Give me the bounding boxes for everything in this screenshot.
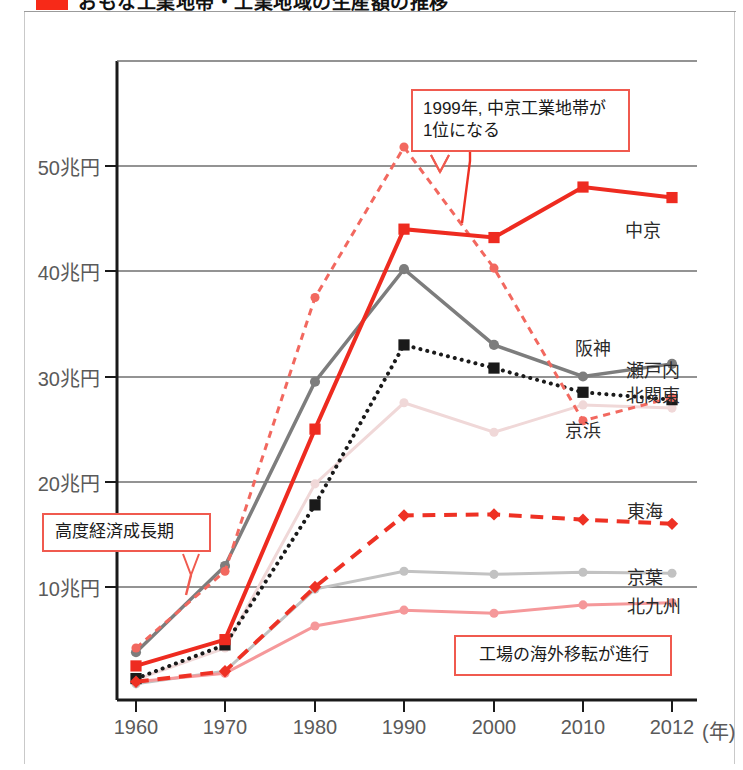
- y-axis-tick-label: 30兆円: [0, 363, 100, 392]
- chart-page: おもな工業地帯・工業地域の生産額の推移 1999年, 中京工業地帯が 1位になる: [0, 0, 743, 770]
- x-axis-tick-label: 2012: [641, 716, 703, 739]
- y-axis-tick-label: 20兆円: [0, 468, 100, 497]
- series-label-北九州: 北九州: [627, 592, 681, 618]
- y-axis-tick-label: 50兆円: [0, 152, 100, 181]
- x-axis-tick-label: 2010: [552, 716, 614, 739]
- series-label-中京: 中京: [625, 216, 661, 242]
- x-axis-tick-label: 1990: [373, 716, 435, 739]
- x-axis-unit-label: (年): [702, 716, 735, 745]
- series-label-瀬戸内: 瀬戸内: [626, 356, 680, 382]
- x-axis-tick-label: 2000: [463, 716, 525, 739]
- series-label-北関東: 北関東: [626, 381, 680, 407]
- series-label-京葉: 京葉: [627, 563, 663, 589]
- x-axis-tick-label: 1960: [105, 716, 167, 739]
- series-label-東海: 東海: [627, 497, 663, 523]
- series-label-京浜: 京浜: [565, 416, 601, 442]
- y-axis-tick-label: 40兆円: [0, 257, 100, 286]
- y-axis-tick-label: 10兆円: [0, 573, 100, 602]
- series-label-阪神: 阪神: [575, 334, 611, 360]
- x-axis-tick-label: 1970: [194, 716, 256, 739]
- x-axis-tick-label: 1980: [284, 716, 346, 739]
